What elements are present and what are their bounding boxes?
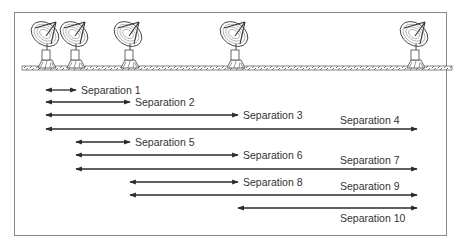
radio-dish-icon — [26, 16, 63, 68]
separation-label: Separation 3 — [243, 109, 303, 121]
separation-label: Separation 10 — [340, 212, 406, 224]
separation-label: Separation 1 — [81, 84, 141, 96]
separation-label: Separation 6 — [243, 149, 303, 161]
separation-label: Separation 5 — [135, 136, 195, 148]
separation-8: Separation 8 — [130, 176, 303, 188]
separation-label: Separation 7 — [340, 154, 400, 166]
radio-dish-icon — [55, 16, 92, 68]
radio-dish-icon — [109, 16, 146, 68]
separation-label: Separation 8 — [243, 176, 303, 188]
separation-arrows: Separation 1Separation 2Separation 3Sepa… — [46, 84, 417, 225]
separation-2: Separation 2 — [46, 96, 195, 108]
array-diagram: Separation 1Separation 2Separation 3Sepa… — [0, 0, 465, 249]
radio-dish-icon — [215, 16, 252, 68]
separation-10: Separation 10 — [238, 208, 417, 224]
separation-label: Separation 2 — [135, 96, 195, 108]
antenna-group — [26, 16, 432, 68]
separation-6: Separation 6 — [76, 149, 303, 161]
separation-4: Separation 4 — [46, 114, 417, 129]
separation-label: Separation 9 — [340, 180, 400, 192]
separation-3: Separation 3 — [46, 109, 303, 121]
separation-label: Separation 4 — [340, 114, 400, 126]
separation-5: Separation 5 — [76, 136, 195, 148]
separation-1: Separation 1 — [46, 84, 141, 96]
radio-dish-icon — [395, 16, 432, 68]
